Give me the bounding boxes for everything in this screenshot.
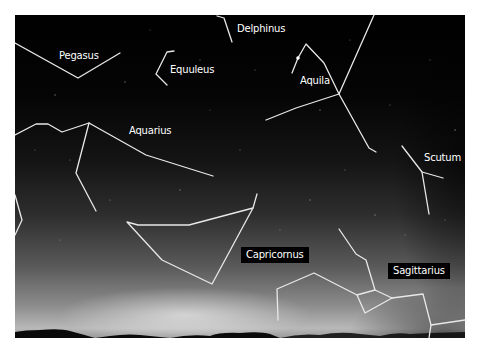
label-capricornus: Capricornus	[241, 247, 309, 263]
sagittarius-body-lines	[277, 273, 392, 320]
capricornus-lines	[127, 208, 253, 284]
aquarius-edge-lines	[15, 195, 22, 235]
aquarius-branch-lines	[76, 123, 96, 211]
label-sagittarius: Sagittarius	[388, 263, 450, 279]
label-scutum: Scutum	[424, 152, 461, 164]
aquila-long-line	[339, 15, 374, 94]
sagittarius-right-lines	[392, 294, 431, 338]
aquila-tail	[339, 94, 376, 152]
sagittarius-tail-lines	[431, 320, 465, 325]
capricornus-tip	[253, 194, 257, 208]
label-aquarius: Aquarius	[129, 125, 171, 137]
delphinus-lines	[217, 16, 232, 42]
altair-star	[296, 56, 300, 60]
label-pegasus: Pegasus	[59, 50, 99, 62]
label-equuleus: Equuleus	[170, 64, 214, 76]
horizon-silhouette	[15, 329, 280, 338]
aquarius-main-lines	[15, 123, 213, 176]
sagittarius-teapot-lines	[357, 295, 392, 313]
label-aquila: Aquila	[300, 75, 330, 87]
sagittarius-bow-lines	[339, 229, 375, 290]
label-delphinus: Delphinus	[237, 23, 285, 35]
scutum-stem	[422, 172, 429, 214]
aquila-left-wing	[266, 94, 339, 120]
